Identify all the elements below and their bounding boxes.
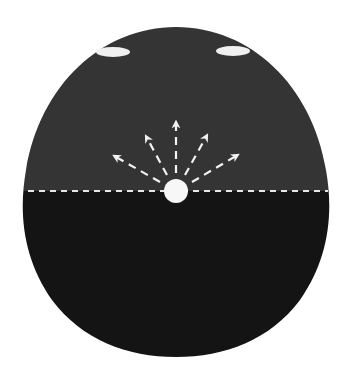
right-ellipse	[216, 46, 250, 56]
diagram-canvas: Cross-section of a dome-shaped enclosure…	[0, 0, 348, 372]
upper-region	[0, 0, 348, 191]
left-ellipse	[96, 47, 130, 57]
light-source	[164, 179, 188, 203]
diagram-svg	[0, 0, 348, 372]
lower-region	[0, 191, 348, 372]
